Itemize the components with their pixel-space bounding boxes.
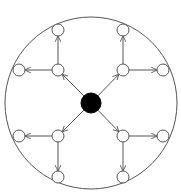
arrow-edge-inner-top-left — [62, 74, 84, 96]
node-inner-top-left — [52, 64, 64, 76]
node-outer-top-right-up — [117, 24, 129, 36]
node-outer-bottom-left-left — [13, 130, 25, 142]
hub-node — [81, 93, 101, 113]
node-inner-bottom-right — [117, 130, 129, 142]
node-outer-bottom-right-right — [157, 130, 169, 142]
node-inner-top-right — [117, 64, 129, 76]
node-outer-bottom-left-down — [52, 171, 64, 183]
node-outer-top-left-up — [52, 24, 64, 36]
arrow-edge-inner-bottom-left — [62, 110, 84, 132]
node-outer-bottom-right-down — [117, 171, 129, 183]
nodes-group — [13, 24, 169, 183]
radial-tree-diagram — [0, 0, 181, 196]
node-outer-top-right-right — [157, 64, 169, 76]
node-inner-bottom-left — [52, 130, 64, 142]
node-outer-top-left-left — [13, 64, 25, 76]
arrow-edge-inner-top-right — [98, 74, 119, 96]
arrow-edge-inner-bottom-right — [98, 110, 119, 132]
